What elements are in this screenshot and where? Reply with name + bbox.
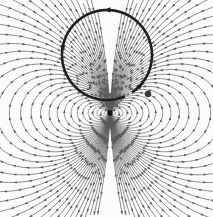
magnetic-field-figure: Magnetic field of a circular current loo… bbox=[0, 0, 213, 217]
dipole-center-dot bbox=[108, 111, 113, 116]
field-diagram-canvas bbox=[0, 0, 213, 217]
dipole-center-marker bbox=[108, 111, 113, 116]
loop-end-cap bbox=[145, 91, 151, 97]
